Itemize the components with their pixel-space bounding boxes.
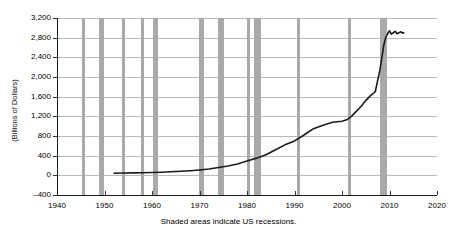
series-path — [114, 31, 404, 173]
series-line-monetary-base — [0, 0, 457, 244]
chart-caption: Shaded areas indicate US recessions. — [0, 217, 457, 226]
chart-container: (Billions of Dollars) –40004008001,2001,… — [0, 0, 457, 244]
x-axis-line — [57, 195, 437, 196]
y-axis-line — [57, 18, 58, 196]
